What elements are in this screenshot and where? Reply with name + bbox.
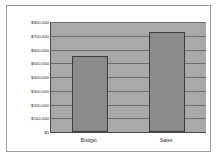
x-tick-label: Budget	[81, 137, 97, 144]
y-tick-label: $500,000	[31, 61, 49, 66]
y-tick-label: $300,000	[31, 88, 49, 93]
x-axis: BudgetSales	[50, 137, 206, 149]
y-tick-label: $600,000	[31, 47, 49, 52]
x-tick-label: Sales	[160, 137, 173, 144]
y-axis: $0$100,000$200,000$300,000$400,000$500,0…	[14, 22, 50, 133]
chart-border: $0$100,000$200,000$300,000$400,000$500,0…	[6, 5, 211, 152]
y-tick-label: $400,000	[31, 75, 49, 80]
chart-figure: $0$100,000$200,000$300,000$400,000$500,0…	[0, 0, 217, 159]
bar-budget[interactable]	[72, 56, 108, 132]
y-tick-label: $800,000	[31, 20, 49, 25]
y-tick-label: $100,000	[31, 116, 49, 121]
gridline	[51, 22, 206, 23]
bar-sales[interactable]	[149, 32, 185, 132]
plot-area	[50, 22, 206, 133]
y-tick-label: $700,000	[31, 33, 49, 38]
y-tick-label: $200,000	[31, 102, 49, 107]
y-tick-label: $0	[44, 130, 49, 135]
